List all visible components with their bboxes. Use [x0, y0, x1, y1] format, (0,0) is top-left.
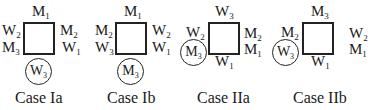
seat-right-2: W1 — [152, 40, 171, 60]
seat-top: W3 — [215, 4, 234, 24]
case-caption: Case Ia — [15, 89, 63, 107]
circled-person: M3 — [117, 58, 144, 85]
case-iib: M3 M2 W2 M1 W1 W3 Case IIb — [266, 0, 366, 110]
seat-top: M3 — [311, 4, 329, 24]
table-square — [23, 22, 55, 55]
seat-top: M1 — [124, 4, 142, 24]
case-caption: Case IIb — [293, 89, 347, 107]
seat-left-2: M3 — [2, 40, 20, 60]
case-ib: M1 M2 W3 W2 W1 M3 Case Ib — [92, 0, 184, 110]
case-caption: Case IIa — [197, 89, 250, 107]
seat-top: M1 — [32, 4, 50, 24]
seat-right-2: M1 — [349, 42, 367, 62]
seat-right-2: W1 — [62, 40, 81, 60]
table-square — [208, 22, 240, 55]
seat-bottom: W1 — [311, 54, 330, 74]
table-square — [302, 22, 334, 55]
circled-person: W3 — [25, 58, 52, 85]
seat-right-2: M1 — [244, 42, 262, 62]
circled-person: W3 — [272, 39, 299, 66]
seat-bottom: W1 — [215, 54, 234, 74]
case-iia: W3 W2 M2 M1 W1 M3 Case IIa — [180, 0, 272, 110]
case-caption: Case Ib — [107, 89, 155, 107]
circled-person: M3 — [180, 39, 207, 66]
seat-left-2: W3 — [95, 40, 114, 60]
case-ia: M1 W2 M3 M2 W1 W3 Case Ia — [0, 0, 92, 110]
table-square — [115, 22, 147, 55]
